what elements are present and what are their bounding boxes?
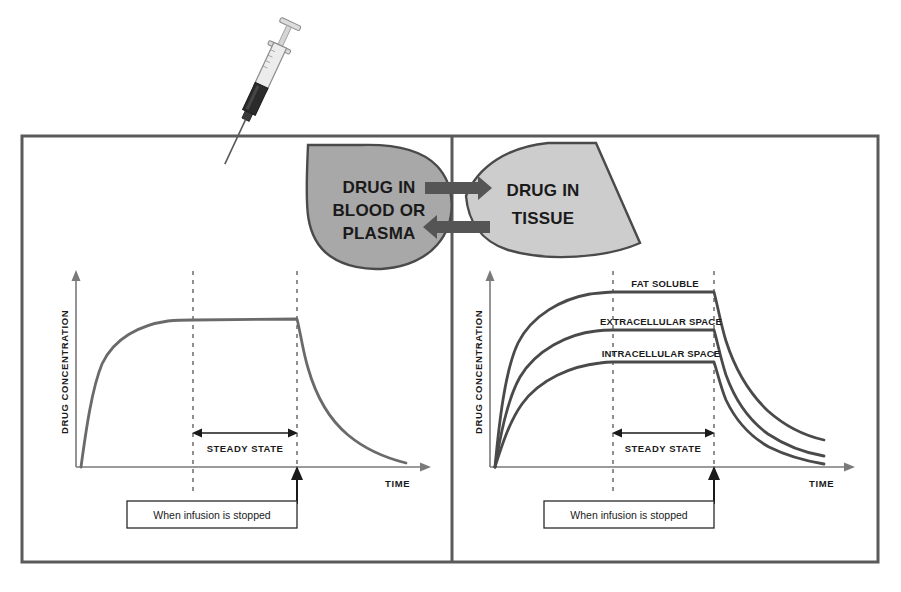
blood-label-line-3: PLASMA [343,224,416,243]
diagram-canvas: DRUG IN BLOOD OR PLASMA DRUG IN TISSUE D… [0,0,901,592]
left-steady-state-arrow [192,429,298,438]
left-callout-label: When infusion is stopped [153,509,270,521]
right-chart: DRUG CONCENTRATION TIME FAT SOLUBLE EXTR… [473,270,855,528]
left-infusion-stop-arrow [291,466,303,504]
left-x-axis-title: TIME [385,478,410,489]
blood-label-line-2: BLOOD OR [332,201,425,220]
left-x-axis-arrowhead [420,463,431,472]
syringe-icon [214,17,302,169]
right-y-axis-title: DRUG CONCENTRATION [473,310,484,434]
blood-compartment: DRUG IN BLOOD OR PLASMA [307,145,452,269]
right-steady-state-label: STEADY STATE [625,443,702,454]
right-x-axis-arrowhead [844,463,855,472]
right-infusion-stop-arrow [708,466,720,504]
tissue-label-line-1: DRUG IN [506,181,579,200]
left-y-axis-title: DRUG CONCENTRATION [59,310,70,434]
right-label-intracellular: INTRACELLULAR SPACE [602,348,721,359]
left-chart: DRUG CONCENTRATION TIME STEADY STATE Whe… [59,270,431,528]
tissue-compartment: DRUG IN TISSUE [466,143,640,257]
right-steady-state-arrow [612,429,715,438]
left-y-axis-arrowhead [72,270,81,281]
tissue-leaf-shape [466,143,640,257]
tissue-label-line-2: TISSUE [512,209,575,228]
right-x-axis-title: TIME [809,478,834,489]
right-y-axis-arrowhead [486,270,495,281]
right-label-fat-soluble: FAT SOLUBLE [631,278,698,289]
right-callout-label: When infusion is stopped [570,509,687,521]
right-label-extracellular: EXTRACELLULAR SPACE [600,316,722,327]
left-steady-state-label: STEADY STATE [207,443,284,454]
blood-label-line-1: DRUG IN [342,178,415,197]
